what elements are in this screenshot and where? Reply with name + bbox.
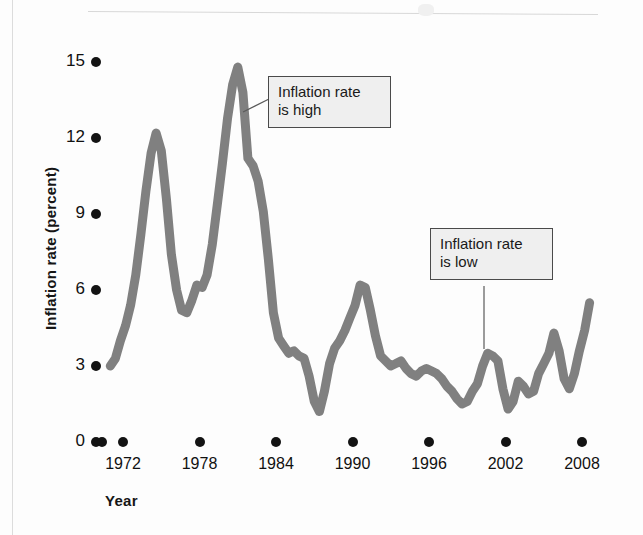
callout-inflation-high: Inflation rate is high — [268, 76, 391, 128]
y-tick-dot — [91, 57, 101, 67]
y-tick-dot — [91, 209, 101, 219]
y-tick-label: 15 — [45, 51, 85, 71]
y-tick-label: 0 — [45, 431, 85, 451]
x-tick-label: 2002 — [476, 455, 536, 473]
y-tick-dot — [91, 133, 101, 143]
x-tick-label: 2008 — [552, 455, 612, 473]
x-tick-dot — [195, 437, 205, 447]
x-tick-dot — [271, 437, 281, 447]
origin-tick-dot — [97, 437, 107, 447]
x-tick-dot — [424, 437, 434, 447]
y-tick-label: 6 — [45, 279, 85, 299]
x-axis-title: Year — [105, 492, 138, 509]
callout-inflation-low: Inflation rate is low — [430, 228, 553, 280]
y-tick-label: 9 — [45, 203, 85, 223]
x-tick-dot — [118, 437, 128, 447]
y-tick-dot — [91, 285, 101, 295]
y-axis-title: Inflation rate (percent) — [42, 134, 59, 364]
y-tick-label: 12 — [45, 127, 85, 147]
x-tick-dot — [501, 437, 511, 447]
x-tick-label: 1984 — [246, 455, 306, 473]
x-tick-label: 1996 — [399, 455, 459, 473]
figure-container: Inflation rate (percent) Year 03691215 1… — [0, 0, 643, 535]
x-tick-label: 1972 — [93, 455, 153, 473]
x-tick-dot — [348, 437, 358, 447]
y-tick-dot — [91, 361, 101, 371]
x-tick-dot — [577, 437, 587, 447]
x-tick-label: 1978 — [170, 455, 230, 473]
x-tick-label: 1990 — [323, 455, 383, 473]
y-tick-label: 3 — [45, 355, 85, 375]
